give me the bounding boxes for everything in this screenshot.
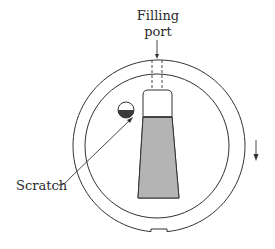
filling-port-label-line2: port [144,24,172,39]
scratch-leader [58,117,133,185]
filling-port-label-line1: Filling [137,8,179,23]
liquid [138,117,179,198]
scratch-bubble [118,102,134,118]
scratch-label: Scratch [16,178,68,193]
filling-port-arrow-icon [155,40,159,59]
centrifuge-diagram: Filling port Scratch [0,0,275,249]
filling-port-channel [152,60,162,90]
rotation-arrow-icon [254,140,259,161]
